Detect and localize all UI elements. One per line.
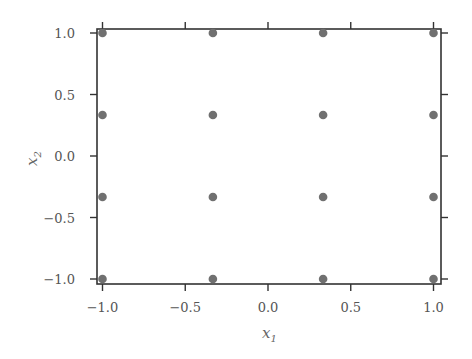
y-tick-label: −1.0 bbox=[43, 272, 75, 287]
data-point bbox=[319, 193, 328, 202]
data-point bbox=[209, 193, 218, 202]
data-point bbox=[209, 275, 218, 284]
data-point bbox=[98, 29, 107, 38]
data-point bbox=[209, 111, 218, 120]
y-tick-label: 1.0 bbox=[54, 26, 75, 41]
data-point bbox=[319, 275, 328, 284]
y-tick-label: 0.0 bbox=[54, 149, 75, 164]
data-point bbox=[429, 111, 438, 120]
data-point bbox=[98, 193, 107, 202]
data-point bbox=[429, 29, 438, 38]
x-tick-label: −0.5 bbox=[169, 300, 201, 315]
x-tick-label: 0.0 bbox=[258, 300, 279, 315]
y-tick-label: −0.5 bbox=[43, 211, 75, 226]
x-tick-label: 0.5 bbox=[340, 300, 361, 315]
data-point bbox=[319, 111, 328, 120]
data-point bbox=[429, 275, 438, 284]
data-point bbox=[98, 275, 107, 284]
data-point bbox=[98, 111, 107, 120]
y-tick-label: 0.5 bbox=[54, 88, 75, 103]
x-tick-label: 1.0 bbox=[423, 300, 444, 315]
plot-area bbox=[97, 29, 441, 284]
scatter-chart: −1.0−0.50.00.51.0 −1.0−0.50.00.51.0 x1 x… bbox=[0, 0, 472, 359]
data-point bbox=[319, 29, 328, 38]
y-axis-label: x2 bbox=[23, 151, 43, 166]
x-tick-label: −1.0 bbox=[87, 300, 119, 315]
x-axis-label: x1 bbox=[262, 324, 277, 344]
data-point bbox=[429, 193, 438, 202]
data-point bbox=[209, 29, 218, 38]
